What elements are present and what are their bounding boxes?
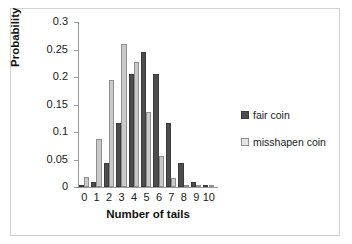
- bar-fair-coin: [104, 163, 109, 187]
- x-axis-title: Number of tails: [78, 208, 218, 220]
- bar-misshapen-coin: [96, 139, 101, 187]
- bar-group: [78, 22, 90, 187]
- bar-misshapen-coin: [121, 44, 126, 187]
- bar-fair-coin: [178, 163, 183, 187]
- legend-swatch-icon: [241, 138, 249, 146]
- bar-fair-coin: [203, 185, 208, 187]
- y-axis-tick-label: 0.1: [53, 125, 68, 138]
- bar-misshapen-coin: [159, 156, 164, 187]
- chart-figure: Probability 00.050.10.150.20.250.3 01234…: [10, 8, 340, 236]
- bar-fair-coin: [166, 123, 171, 187]
- legend-item[interactable]: misshapen coin: [241, 136, 326, 148]
- y-axis-tick-label: 0.15: [47, 98, 68, 111]
- bar-fair-coin: [116, 123, 121, 187]
- bar-group: [190, 22, 202, 187]
- x-axis-tick-label: 5: [140, 190, 152, 204]
- x-axis-tick-label: 10: [203, 190, 215, 204]
- bar-misshapen-coin: [109, 80, 114, 187]
- x-axis-tick-label: 6: [153, 190, 165, 204]
- bar-fair-coin: [79, 185, 84, 187]
- x-axis-tick-label: 9: [190, 190, 202, 204]
- bar-group: [165, 22, 177, 187]
- bar-misshapen-coin: [209, 185, 214, 187]
- x-axis-line: [78, 187, 218, 188]
- bar-group: [128, 22, 140, 187]
- y-axis-tick-label: 0.2: [53, 70, 68, 83]
- x-axis-tick-label: 1: [90, 190, 102, 204]
- bar-group: [203, 22, 215, 187]
- bar-group: [153, 22, 165, 187]
- bar-fair-coin: [129, 74, 134, 187]
- x-axis-tick-label: 8: [178, 190, 190, 204]
- bar-misshapen-coin: [146, 112, 151, 187]
- bar-group: [90, 22, 102, 187]
- y-axis-tick-label: 0.3: [53, 15, 68, 28]
- x-axis-tick-label: 3: [115, 190, 127, 204]
- bar-misshapen-coin: [84, 177, 89, 187]
- legend-swatch-icon: [241, 111, 249, 119]
- x-axis-tick-label: 2: [103, 190, 115, 204]
- plot-area: 00.050.10.150.20.250.3: [78, 22, 215, 187]
- x-axis-tick-label: 0: [78, 190, 90, 204]
- y-axis-tick: 0: [74, 187, 78, 188]
- y-axis-tick-label: 0.05: [47, 153, 68, 166]
- legend-item-label: fair coin: [253, 109, 290, 121]
- legend-item[interactable]: fair coin: [241, 109, 326, 121]
- legend-item-label: misshapen coin: [253, 136, 326, 148]
- bar-misshapen-coin: [171, 178, 176, 187]
- bar-fair-coin: [141, 52, 146, 187]
- bar-group: [115, 22, 127, 187]
- x-axis-ticks: 012345678910: [78, 190, 218, 206]
- x-axis-tick-label: 7: [165, 190, 177, 204]
- bar-fair-coin: [191, 182, 196, 188]
- bar-group: [103, 22, 115, 187]
- y-axis-tick-label: 0: [62, 180, 68, 193]
- bar-fair-coin: [153, 74, 158, 187]
- y-axis-title: Probability: [9, 8, 21, 67]
- y-axis-tick-label: 0.25: [47, 43, 68, 56]
- bar-group: [178, 22, 190, 187]
- bar-misshapen-coin: [184, 185, 189, 187]
- bar-misshapen-coin: [196, 185, 201, 187]
- bar-fair-coin: [91, 182, 96, 188]
- bar-group: [140, 22, 152, 187]
- chart-legend: fair coinmisshapen coin: [241, 109, 326, 163]
- bar-misshapen-coin: [134, 62, 139, 187]
- x-axis-tick-label: 4: [128, 190, 140, 204]
